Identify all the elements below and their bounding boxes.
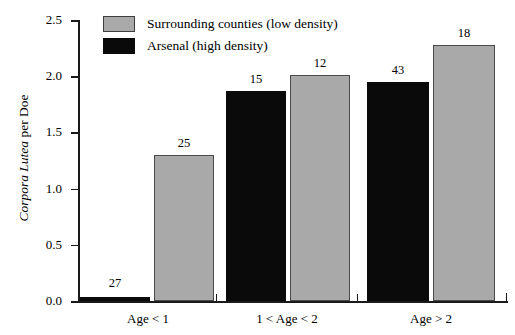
bar-age-1-2-surrounding[interactable] bbox=[290, 75, 350, 301]
y-axis-title: Corpora Lutea per Doe bbox=[16, 48, 32, 268]
y-tick-0-0: 0.0 bbox=[71, 301, 79, 303]
y-tick-1-5: 1.5 bbox=[71, 132, 79, 134]
bar-label-age-1-2-surrounding: 12 bbox=[314, 56, 327, 71]
x-axis-line bbox=[78, 301, 508, 303]
y-tick-label-2-0: 2.0 bbox=[46, 68, 62, 84]
legend: Surrounding counties (low density) Arsen… bbox=[103, 14, 338, 58]
bar-age-lt-1-surrounding[interactable] bbox=[154, 155, 214, 301]
bar-label-age-lt-1-surrounding: 25 bbox=[178, 136, 191, 151]
y-axis-title-italic: Corpora Lutea bbox=[16, 141, 31, 222]
bar-label-age-gt-2-arsenal: 43 bbox=[392, 63, 405, 78]
y-tick-label-2-5: 2.5 bbox=[46, 12, 62, 28]
y-tick-2-0: 2.0 bbox=[71, 76, 79, 78]
y-axis-line bbox=[78, 20, 80, 301]
legend-label-surrounding: Surrounding counties (low density) bbox=[147, 16, 338, 32]
y-tick-label-1-0: 1.0 bbox=[46, 181, 62, 197]
legend-swatch-black-icon bbox=[103, 38, 135, 54]
y-tick-2-5: 2.5 bbox=[71, 20, 79, 22]
legend-swatch-gray-icon bbox=[103, 16, 135, 32]
bar-chart: Corpora Lutea per Doe 2.5 2.0 1.5 1.0 0.… bbox=[0, 0, 515, 335]
bar-label-age-lt-1-arsenal: 27 bbox=[109, 276, 122, 291]
bar-age-1-2-arsenal[interactable] bbox=[226, 91, 286, 301]
y-tick-1-0: 1.0 bbox=[71, 189, 79, 191]
bar-age-gt-2-surrounding[interactable] bbox=[433, 45, 495, 301]
bar-label-age-1-2-arsenal: 15 bbox=[250, 72, 263, 87]
x-group-separator-1 bbox=[216, 294, 217, 301]
x-group-separator-2 bbox=[357, 294, 358, 301]
y-tick-label-0-0: 0.0 bbox=[46, 293, 62, 309]
x-category-label-age-lt-1: Age < 1 bbox=[127, 311, 169, 327]
legend-item-surrounding[interactable]: Surrounding counties (low density) bbox=[103, 14, 338, 34]
legend-label-arsenal: Arsenal (high density) bbox=[147, 38, 268, 54]
x-category-label-age-gt-2: Age > 2 bbox=[410, 311, 452, 327]
y-axis-title-rest: per Doe bbox=[16, 94, 31, 140]
y-tick-0-5: 0.5 bbox=[71, 245, 79, 247]
legend-item-arsenal[interactable]: Arsenal (high density) bbox=[103, 36, 338, 56]
bar-age-lt-1-arsenal[interactable] bbox=[80, 297, 150, 302]
plot-area: 2.5 2.0 1.5 1.0 0.5 0.0 27 25 15 12 bbox=[78, 20, 508, 301]
bar-label-age-gt-2-surrounding: 18 bbox=[458, 26, 471, 41]
y-tick-label-0-5: 0.5 bbox=[46, 237, 62, 253]
x-category-label-age-1-2: 1 < Age < 2 bbox=[256, 311, 318, 327]
bar-age-gt-2-arsenal[interactable] bbox=[367, 82, 429, 301]
x-axis-end-tick bbox=[506, 293, 507, 301]
y-tick-label-1-5: 1.5 bbox=[46, 124, 62, 140]
